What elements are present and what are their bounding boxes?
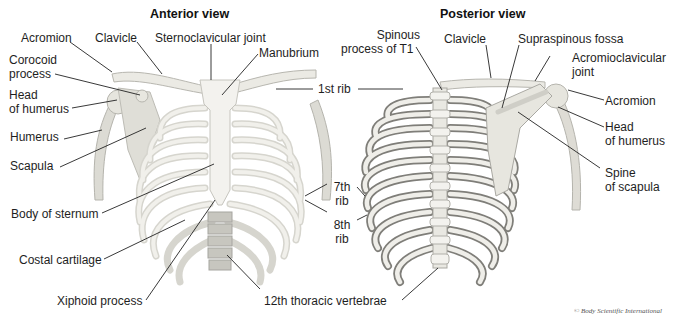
posterior-rib-cage — [365, 79, 581, 282]
posterior-view-title: Posterior view — [440, 7, 525, 21]
label-12th-thoracic-vertebrae: 12th thoracic vertebrae — [264, 295, 387, 308]
label-clavicle-posterior: Clavicle — [444, 33, 486, 46]
label-8th-rib-line1: 8th — [328, 219, 356, 232]
rib-cage-illustration — [0, 0, 677, 321]
label-head-of-humerus-posterior-line1: Head — [605, 121, 634, 134]
label-xiphoid-process: Xiphoid process — [57, 295, 142, 308]
label-corocoid-process-line2: process — [9, 68, 51, 81]
label-7th-rib-line2: rib — [328, 195, 356, 208]
label-corocoid-process-line1: Corocoid — [9, 54, 57, 67]
label-7th-rib-line1: 7th — [328, 181, 356, 194]
label-spine-of-scapula-line1: Spine — [605, 167, 636, 180]
label-head-of-humerus-posterior-line2: of humerus — [605, 135, 665, 148]
label-head-of-humerus-anterior-line1: Head — [9, 89, 38, 102]
copyright-notice: © Body Scientific International — [574, 307, 662, 315]
anterior-rib-cage — [94, 70, 331, 282]
label-acromion-anterior: Acromion — [21, 32, 72, 45]
label-acromion-posterior: Acromion — [605, 95, 656, 108]
label-spinous-process-line2: process of T1 — [341, 43, 413, 56]
label-costal-cartilage: Costal cartilage — [19, 254, 102, 267]
label-acromioclavicular-joint-line2: joint — [572, 66, 594, 79]
label-manubrium: Manubrium — [259, 47, 319, 60]
anterior-view-title: Anterior view — [150, 7, 229, 21]
label-clavicle-anterior: Clavicle — [95, 32, 137, 45]
label-supraspinous-fossa: Supraspinous fossa — [518, 33, 623, 46]
label-1st-rib: 1st rib — [318, 83, 351, 96]
label-scapula: Scapula — [10, 160, 53, 173]
label-humerus: Humerus — [10, 131, 59, 144]
label-body-of-sternum: Body of sternum — [11, 208, 98, 221]
label-acromioclavicular-joint-line1: Acromioclavicular — [572, 52, 666, 65]
label-8th-rib-line2: rib — [328, 233, 356, 246]
label-spinous-process-line1: Spinous — [366, 29, 420, 42]
label-spine-of-scapula-line2: of scapula — [605, 181, 660, 194]
label-sternoclavicular-joint: Sternoclavicular joint — [155, 32, 266, 45]
label-head-of-humerus-anterior-line2: of humerus — [9, 103, 69, 116]
